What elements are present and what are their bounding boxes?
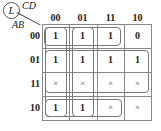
kmap-cell: × xyxy=(69,78,96,88)
kmap-cell: 0 xyxy=(124,30,151,41)
kmap-cell: × xyxy=(124,78,151,88)
kmap-cell: × xyxy=(124,102,151,112)
kmap-cell: × xyxy=(97,78,124,88)
column-header: 01 xyxy=(69,12,96,23)
kmap-cell: 1 xyxy=(97,54,124,65)
row-header: 00 xyxy=(22,30,40,41)
column-header: 10 xyxy=(124,12,151,23)
column-variables-label: CD xyxy=(22,0,36,11)
kmap-cell: 1 xyxy=(69,102,96,113)
kmap-cell: 1 xyxy=(97,30,124,41)
kmap-cell: 1 xyxy=(124,54,151,65)
kmap-cell: 1 xyxy=(42,54,69,65)
column-header: 11 xyxy=(97,12,124,23)
column-header: 00 xyxy=(42,12,69,23)
kmap-cell: 1 xyxy=(69,30,96,41)
kmap-cell: 1 xyxy=(42,30,69,41)
row-header: 01 xyxy=(22,54,40,65)
row-header: 11 xyxy=(22,78,40,89)
kmap-cell: × xyxy=(97,102,124,112)
kmap-cell: 1 xyxy=(69,54,96,65)
output-variable-label: L xyxy=(3,2,20,19)
kmap-cell: 1 xyxy=(42,102,69,113)
row-variables-label: AB xyxy=(12,19,24,30)
kmap-cell: × xyxy=(42,78,69,88)
row-header: 10 xyxy=(22,102,40,113)
